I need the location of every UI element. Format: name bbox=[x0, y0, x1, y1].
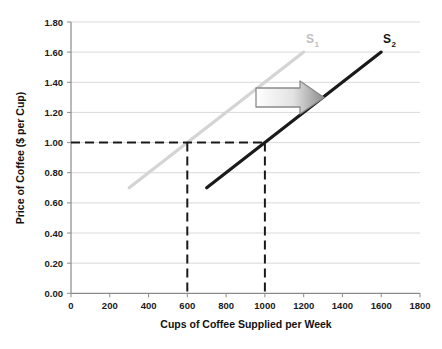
x-tick-label: 1200 bbox=[293, 300, 314, 311]
y-tick-label: 0.00 bbox=[45, 288, 64, 299]
x-tick-label: 1800 bbox=[409, 300, 430, 311]
curve-label-s2-text: S bbox=[383, 32, 391, 46]
curve-label-s2-subscript: 2 bbox=[392, 40, 397, 49]
y-tick-label: 1.80 bbox=[45, 17, 64, 28]
y-tick-label: 0.20 bbox=[45, 258, 64, 269]
y-tick-label: 1.00 bbox=[45, 137, 64, 148]
chart-canvas: 1.80 1.60 1.40 1.20 1.00 0.80 0.60 0.40 … bbox=[0, 0, 442, 349]
x-tick-label: 1400 bbox=[332, 300, 353, 311]
x-tick-label: 0 bbox=[68, 300, 73, 311]
y-tick-label: 1.40 bbox=[45, 77, 64, 88]
x-tick-label: 400 bbox=[141, 300, 157, 311]
x-tick-label: 1600 bbox=[371, 300, 392, 311]
x-tick-label: 800 bbox=[218, 300, 234, 311]
y-tick-label: 1.20 bbox=[45, 107, 64, 118]
x-tick-label: 1000 bbox=[254, 300, 275, 311]
x-tick-label: 600 bbox=[179, 300, 195, 311]
curve-label-s1-text: S bbox=[306, 32, 314, 46]
curve-label-s1-subscript: 1 bbox=[315, 40, 320, 49]
x-axis-title: Cups of Coffee Supplied per Week bbox=[160, 318, 331, 330]
supply-shift-chart: 1.80 1.60 1.40 1.20 1.00 0.80 0.60 0.40 … bbox=[0, 0, 442, 349]
y-tick-label: 0.80 bbox=[45, 167, 64, 178]
y-tick-label: 0.60 bbox=[45, 197, 64, 208]
x-tick-label: 200 bbox=[102, 300, 118, 311]
y-axis-title: Price of Coffee ($ per Cup) bbox=[14, 92, 26, 224]
y-tick-label: 1.60 bbox=[45, 47, 64, 58]
y-tick-label: 0.40 bbox=[45, 228, 64, 239]
